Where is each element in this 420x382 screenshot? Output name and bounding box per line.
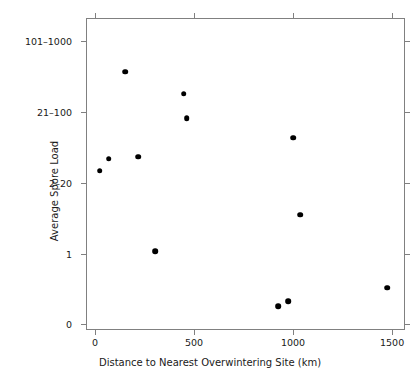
x-tick-mark-top <box>293 13 294 18</box>
data-point <box>181 91 187 97</box>
y-tick-mark-right <box>405 254 410 255</box>
x-tick-mark-top <box>95 13 96 18</box>
scatter-plot-figure: 050010001500 101–100021–1002–2010 Distan… <box>0 0 420 382</box>
y-tick-label: 21–100 <box>37 107 72 118</box>
x-tick-mark <box>293 330 294 335</box>
data-point <box>97 168 103 174</box>
x-tick-mark <box>392 330 393 335</box>
data-point <box>275 303 281 309</box>
x-tick-mark-top <box>392 13 393 18</box>
data-point <box>297 212 303 218</box>
y-axis-title: Average Spore Load <box>49 141 60 241</box>
y-tick-mark-right <box>405 41 410 42</box>
y-tick-mark-right <box>405 324 410 325</box>
y-tick-mark-right <box>405 183 410 184</box>
x-tick-label: 1000 <box>281 337 305 348</box>
x-tick-label: 0 <box>92 337 98 348</box>
data-point <box>135 154 141 160</box>
data-point <box>290 135 296 141</box>
data-point <box>184 116 190 122</box>
data-point <box>106 156 112 162</box>
y-tick-label: 0 <box>66 319 72 330</box>
y-tick-mark <box>81 324 86 325</box>
x-tick-mark-top <box>194 13 195 18</box>
y-tick-mark-right <box>405 112 410 113</box>
data-point <box>285 298 291 304</box>
y-tick-label: 1 <box>66 248 72 259</box>
x-tick-mark <box>95 330 96 335</box>
plot-area <box>86 18 405 330</box>
y-tick-label: 101–1000 <box>25 36 72 47</box>
x-tick-label: 1500 <box>380 337 404 348</box>
y-tick-mark <box>81 41 86 42</box>
x-tick-label: 500 <box>185 337 203 348</box>
y-tick-mark <box>81 254 86 255</box>
y-tick-mark <box>81 112 86 113</box>
data-point <box>384 285 390 291</box>
x-tick-mark <box>194 330 195 335</box>
data-point <box>152 249 158 255</box>
y-tick-mark <box>81 183 86 184</box>
x-axis-title: Distance to Nearest Overwintering Site (… <box>0 357 420 368</box>
data-point <box>122 69 128 75</box>
